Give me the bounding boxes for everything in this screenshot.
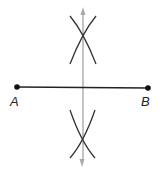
arrow-up-icon	[81, 7, 86, 15]
segment-ab	[17, 87, 148, 88]
point-b-label: B	[141, 95, 150, 108]
point-a-label: A	[10, 95, 19, 108]
point-b	[145, 85, 151, 91]
bisector-diagram	[0, 0, 164, 175]
point-a	[14, 84, 20, 90]
arrow-down-icon	[80, 159, 85, 167]
